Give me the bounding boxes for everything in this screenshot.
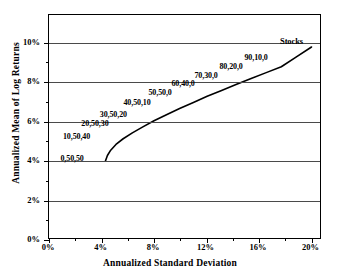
y-tick-major	[44, 201, 49, 202]
x-tick-minor	[75, 238, 76, 241]
data-point-label: 30,50,20	[100, 111, 127, 119]
y-tick-label: 4%	[0, 156, 40, 165]
x-tick-label: 8%	[133, 243, 173, 252]
data-point-label: Stocks	[280, 37, 303, 46]
data-point-label: 40,50,10	[123, 99, 150, 107]
y-tick-minor	[46, 102, 49, 103]
x-tick-minor	[128, 238, 129, 241]
y-tick-label: 2%	[0, 196, 40, 205]
gridline	[49, 161, 320, 162]
data-point-label: 60,40,0	[171, 80, 194, 88]
x-tick-label: 16%	[238, 243, 278, 252]
data-point-label: 90,10,0	[244, 54, 267, 62]
y-tick-label: 10%	[0, 38, 40, 47]
x-tick-label: 0%	[28, 243, 68, 252]
y-tick-label: 6%	[0, 117, 40, 126]
x-tick-label: 4%	[81, 243, 121, 252]
data-point-label: 80,20,0	[219, 63, 242, 71]
y-tick-minor	[46, 141, 49, 142]
data-point-label: 70,30,0	[194, 72, 217, 80]
y-tick-label: 8%	[0, 77, 40, 86]
y-tick-major	[44, 82, 49, 83]
y-tick-major	[44, 161, 49, 162]
gridline	[49, 201, 320, 202]
data-point-label: 50,50,0	[148, 89, 171, 97]
efficient-frontier-chart: Annualized Standard Deviation Annualized…	[0, 0, 340, 279]
x-axis-title: Annualized Standard Deviation	[0, 258, 340, 268]
data-point-label: 10,50,40	[63, 133, 90, 141]
data-point-label: 20,50,30	[81, 120, 108, 128]
x-tick-minor	[180, 238, 181, 241]
y-tick-minor	[46, 220, 49, 221]
x-tick-label: 20%	[291, 243, 331, 252]
x-tick-minor	[285, 238, 286, 241]
y-tick-minor	[46, 62, 49, 63]
x-tick-label: 12%	[186, 243, 226, 252]
x-tick-minor	[233, 238, 234, 241]
data-point-label: 0,50,50	[60, 155, 83, 163]
y-tick-major	[44, 122, 49, 123]
y-tick-minor	[46, 181, 49, 182]
y-tick-major	[44, 43, 49, 44]
